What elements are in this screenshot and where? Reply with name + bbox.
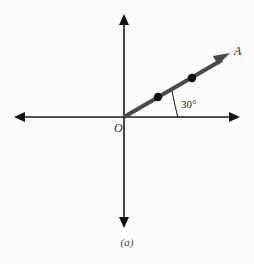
angle-arc-30 [172,91,178,118]
horizontal-axis-left-arrowhead [14,112,25,122]
ray-oa [124,53,230,117]
ray-endpoint-label: A [233,44,242,58]
angle-arc-path [172,91,178,118]
horizontal-axis-right-arrowhead [229,112,240,122]
vertical-axis-bottom-arrowhead [119,217,129,228]
angle-value-label: 30° [181,98,196,110]
vertical-axis-top-arrowhead [119,14,129,25]
coordinate-axes-diagram: O A 30° (a) [0,0,254,264]
figure-container: O A 30° (a) [0,0,254,264]
figure-caption: (a) [121,236,134,249]
origin-label: O [114,121,123,135]
ray-point-1 [154,93,162,101]
ray-oa-line [124,60,222,117]
ray-point-2 [188,74,196,82]
